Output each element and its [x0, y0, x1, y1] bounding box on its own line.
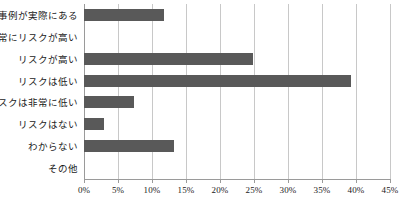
x-tick-mark: [288, 179, 289, 183]
gridline-45pct: [390, 4, 391, 179]
x-tick-mark: [322, 179, 323, 183]
category-label: リスクが高い: [0, 48, 78, 70]
bar-row: [84, 113, 390, 135]
x-tick-label: 10%: [144, 185, 161, 196]
bar: [84, 118, 104, 130]
x-tick-label: 20%: [212, 185, 229, 196]
category-label: リスクはない: [0, 113, 78, 135]
x-tick-label: 15%: [178, 185, 195, 196]
x-tick-label: 0%: [78, 185, 90, 196]
bar: [84, 75, 351, 87]
x-tick-mark: [390, 179, 391, 183]
x-tick-label: 40%: [348, 185, 365, 196]
x-tick-mark: [220, 179, 221, 183]
x-tick-label: 45%: [382, 185, 399, 196]
bar: [84, 9, 164, 21]
bar-row: [84, 135, 390, 157]
x-tick-mark: [254, 179, 255, 183]
x-tick-mark: [356, 179, 357, 183]
bar-row: [84, 4, 390, 26]
bar: [84, 96, 134, 108]
bar-row: [84, 92, 390, 114]
x-tick-label: 5%: [112, 185, 124, 196]
category-label: リスクは非常に低い: [0, 92, 78, 114]
category-label: 非常にリスクが高い: [0, 26, 78, 48]
x-tick-label: 35%: [314, 185, 331, 196]
bar-chart: 事例が実際にある非常にリスクが高いリスクが高いリスクは低いリスクは非常に低いリス…: [0, 0, 408, 216]
bar-row: [84, 70, 390, 92]
category-label: わからない: [0, 135, 78, 157]
x-tick-mark: [152, 179, 153, 183]
x-tick-mark: [186, 179, 187, 183]
bar: [84, 53, 253, 65]
category-label: 事例が実際にある: [0, 4, 78, 26]
category-label: その他: [0, 157, 78, 179]
plot-area: [84, 4, 390, 179]
bar-row: [84, 157, 390, 179]
bar: [84, 140, 174, 152]
x-tick-label: 30%: [280, 185, 297, 196]
bar-row: [84, 26, 390, 48]
x-tick-mark: [118, 179, 119, 183]
x-tick-label: 25%: [246, 185, 263, 196]
bar-row: [84, 48, 390, 70]
category-label: リスクは低い: [0, 70, 78, 92]
x-tick-mark: [84, 179, 85, 183]
x-axis-line: [84, 179, 391, 180]
